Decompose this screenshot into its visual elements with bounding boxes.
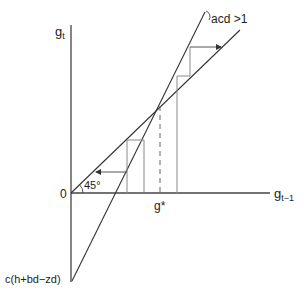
equilibrium-label: g*	[154, 199, 166, 213]
x-axis-label: gt−1	[274, 186, 294, 203]
angle-label: 45°	[84, 179, 101, 191]
steep-reaction-line	[72, 12, 205, 281]
condition-label: acd >1	[211, 12, 248, 26]
y-axis-label: gt	[55, 24, 65, 41]
angle-arc	[80, 185, 83, 193]
origin-label: 0	[60, 187, 67, 201]
intercept-label: c(h+bd−zd)	[5, 273, 61, 285]
cobweb-diagram: gt gt−1 0 45° g* c(h+bd−zd) acd >1	[0, 0, 304, 294]
condition-arc	[206, 11, 210, 20]
